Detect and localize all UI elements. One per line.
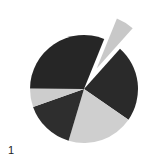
pie-chart: [0, 0, 154, 158]
panel-label: 1: [8, 144, 14, 156]
